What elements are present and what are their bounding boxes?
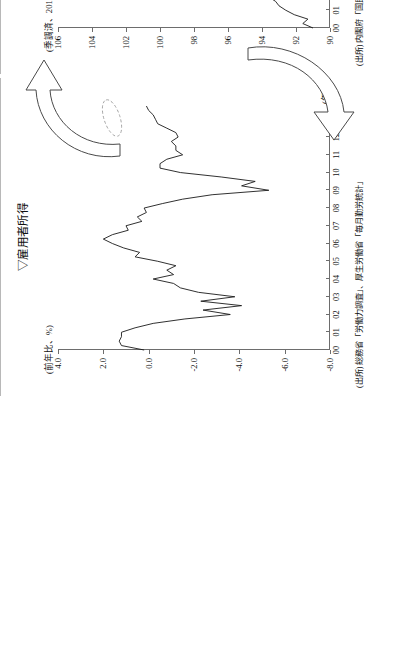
x-tick-label: 10 — [333, 168, 341, 176]
y-tick: 106 — [58, 28, 59, 32]
y-tick-label: 98 — [190, 36, 199, 45]
y-tick: -4.0 — [239, 350, 240, 354]
y-tick: 100 — [160, 28, 161, 32]
curved-arrow-to-employment-icon — [238, 34, 356, 144]
source-note-employment: (出所) 総務省「労働力調査」、厚生労働省「毎月勤労統計」 — [352, 177, 364, 389]
x-tick-label: 08 — [333, 204, 341, 212]
series-line-consumption — [58, 0, 330, 28]
y-tick: -8.0 — [330, 350, 331, 354]
x-tick-label: 01 — [333, 6, 341, 14]
panel-top-rule — [0, 78, 1, 396]
y-tick-label: 0.0 — [144, 358, 153, 369]
plot-area-consumption: 1061041021009896949290 00010203040506070… — [58, 0, 330, 28]
x-tick-label: 00 — [333, 24, 341, 32]
x-tick-label: 09 — [333, 186, 341, 194]
y-tick: -6.0 — [285, 350, 286, 354]
y-tick-label: -2.0 — [190, 358, 199, 372]
curved-arrow-to-consumption-icon — [24, 46, 134, 164]
x-tick-label: 00 — [333, 346, 341, 354]
y-tick: 104 — [92, 28, 93, 32]
y-tick-label: 2.0 — [99, 358, 108, 369]
y-tick: 102 — [126, 28, 127, 32]
x-tick-label: 07 — [333, 222, 341, 230]
y-tick: 4.0 — [58, 350, 59, 354]
y-tick: -2.0 — [194, 350, 195, 354]
y-tick: 98 — [194, 28, 195, 32]
panel-top-rule — [0, 0, 1, 74]
y-tick-label: 4.0 — [54, 358, 63, 369]
y-tick-label: -6.0 — [280, 358, 289, 372]
x-tick-label: 03 — [333, 293, 341, 301]
y-tick-label: 100 — [156, 36, 165, 49]
y-tick: 2.0 — [103, 350, 104, 354]
rotated-figure-canvas: ▽雇用者所得 (前年比、%) 4.02.00.0-2.0-4.0-6.0-8.0… — [0, 0, 402, 402]
y-tick: 0.0 — [149, 350, 150, 354]
y-tick: 90 — [330, 28, 331, 32]
y-tick: 96 — [228, 28, 229, 32]
y-tick: 92 — [296, 28, 297, 32]
y-tick-label: -4.0 — [235, 358, 244, 372]
x-tick-label: 01 — [333, 328, 341, 336]
y-tick-label: -8.0 — [326, 358, 335, 372]
x-tick-label: 05 — [333, 257, 341, 265]
x-tick-label: 11 — [333, 151, 341, 159]
x-tick-label: 04 — [333, 275, 341, 283]
y-tick-label: 96 — [224, 36, 233, 45]
y-tick: 94 — [262, 28, 263, 32]
x-tick-label: 02 — [333, 310, 341, 318]
x-tick-label: 06 — [333, 239, 341, 247]
